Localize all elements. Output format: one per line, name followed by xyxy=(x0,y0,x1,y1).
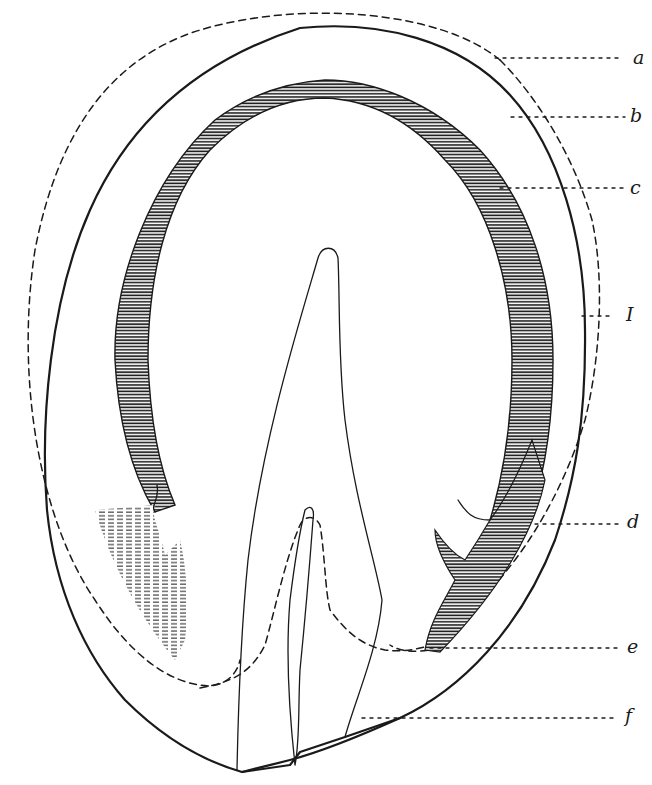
label-c: c xyxy=(630,178,641,197)
hatched-band xyxy=(115,80,553,520)
right-lower-hatched xyxy=(425,440,545,652)
label-e: e xyxy=(627,637,638,656)
central-frog xyxy=(237,248,382,770)
bottom-edge xyxy=(242,718,400,772)
section-diagram xyxy=(0,0,652,785)
label-a: a xyxy=(633,48,644,67)
inner-dashed-contour xyxy=(200,518,428,689)
left-lower-hatched xyxy=(95,505,187,660)
label-b: b xyxy=(630,106,642,125)
label-d: d xyxy=(627,512,639,531)
label-I: I xyxy=(626,305,634,324)
right-hook xyxy=(458,500,490,520)
label-f: f xyxy=(625,706,632,725)
